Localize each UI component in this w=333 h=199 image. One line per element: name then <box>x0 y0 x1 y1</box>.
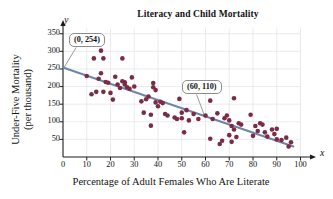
data-points <box>84 48 293 148</box>
x-tick-label: 0 <box>51 160 75 169</box>
y-axis-title-line1: Under-Five Mortality <box>10 25 22 175</box>
y-intercept-callout: (0, 254) <box>69 33 105 47</box>
y-tick-label: 350 <box>34 28 60 37</box>
x-tick-label: 10 <box>75 160 99 169</box>
y-tick-label: 150 <box>34 99 60 108</box>
x-tick-label: 20 <box>99 160 123 169</box>
x-axis-title: Percentage of Adult Females Who Are Lite… <box>26 176 316 187</box>
x-tick-label: 30 <box>122 160 146 169</box>
x-tick-label: 50 <box>170 160 194 169</box>
x-tick-label: 70 <box>217 160 241 169</box>
y-tick-label: 300 <box>34 46 60 55</box>
scatter-chart-figure: Literacy and Child Mortality 50100150200… <box>0 0 333 199</box>
y-tick-label: 200 <box>34 81 60 90</box>
x-tick-label: 60 <box>194 160 218 169</box>
y-tick-label: 250 <box>34 63 60 72</box>
point-callout: (60, 110) <box>182 80 222 94</box>
x-axis-letter: x <box>320 147 324 158</box>
y-axis-title-line2: (per thousand) <box>21 25 33 175</box>
x-tick-label: 100 <box>289 160 313 169</box>
x-tick-label: 80 <box>241 160 265 169</box>
x-tick-label: 40 <box>146 160 170 169</box>
x-tick-label: 90 <box>265 160 289 169</box>
y-tick-label: 100 <box>34 116 60 125</box>
y-tick-label: 50 <box>34 134 60 143</box>
y-axis-letter: y <box>64 14 68 25</box>
x-axis-tick-labels: 0102030405060708090100 <box>0 160 333 176</box>
y-axis-title: Under-Five Mortality (per thousand) <box>10 25 33 175</box>
